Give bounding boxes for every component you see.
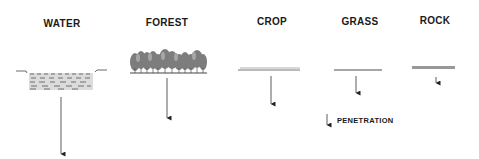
rock-surface-icon	[412, 66, 455, 69]
forest-trees-icon	[130, 49, 207, 73]
water-surface-icon	[16, 70, 107, 90]
legend-label: PENETRATION	[337, 116, 394, 125]
crop-surface-icon	[238, 67, 300, 70]
diagram-canvas	[0, 0, 479, 159]
